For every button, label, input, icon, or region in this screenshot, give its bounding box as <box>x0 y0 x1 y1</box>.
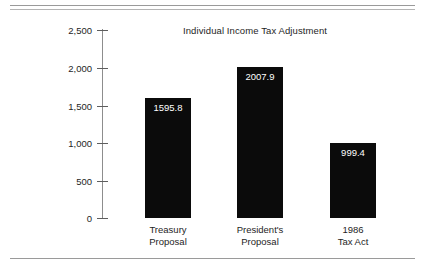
y-axis-tick-label: 2,500 <box>32 25 92 36</box>
bar-1986-tax-act: 999.4 <box>330 143 376 218</box>
y-axis-tick <box>97 30 108 31</box>
bar-value-label: 2007.9 <box>237 71 283 82</box>
category-label-line: Tax Act <box>307 236 399 248</box>
bar-treasury-proposal: 1595.8 <box>145 98 191 218</box>
y-axis-tick-label: 1,500 <box>32 101 92 112</box>
category-label-line: Proposal <box>122 236 214 248</box>
chart-figure: Individual Income Tax Adjustment 2,500 2… <box>0 0 426 273</box>
y-axis-tick-label: 2,000 <box>32 63 92 74</box>
y-axis-tick-label: 0 <box>32 213 92 224</box>
y-axis-line <box>102 29 103 219</box>
category-label-treasury-proposal: Treasury Proposal <box>122 224 214 247</box>
category-label-line: 1986 <box>307 224 399 236</box>
bar-presidents-proposal: 2007.9 <box>237 67 283 218</box>
y-axis-tick-label: 500 <box>32 176 92 187</box>
top-rule-inner <box>10 9 415 10</box>
category-label-presidents-proposal: President's Proposal <box>214 224 306 247</box>
bottom-rule <box>10 258 415 259</box>
bar-value-label: 999.4 <box>330 147 376 158</box>
category-label-line: President's <box>214 224 306 236</box>
y-axis-tick <box>97 106 108 107</box>
y-axis-tick-label: 1,000 <box>32 138 92 149</box>
y-axis-tick <box>97 68 108 69</box>
bar-value-label: 1595.8 <box>145 102 191 113</box>
y-axis-tick <box>97 143 108 144</box>
category-label-line: Proposal <box>214 236 306 248</box>
chart-title: Individual Income Tax Adjustment <box>150 25 360 36</box>
y-axis-tick <box>97 218 108 219</box>
y-axis-tick <box>97 181 108 182</box>
top-rule-outer <box>10 5 415 6</box>
category-label-1986-tax-act: 1986 Tax Act <box>307 224 399 247</box>
category-label-line: Treasury <box>122 224 214 236</box>
